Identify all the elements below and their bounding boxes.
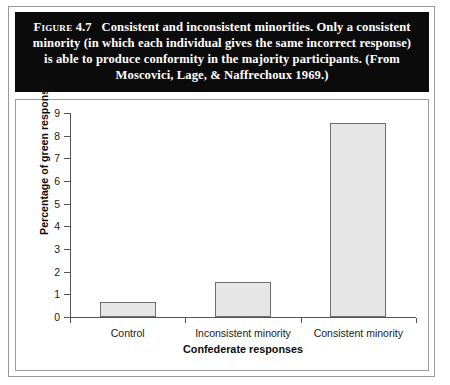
y-axis-tick-label-wrap: 2: [16, 267, 60, 277]
x-axis-category-label: Inconsistent minority: [185, 327, 300, 339]
x-axis-tick: [70, 318, 71, 323]
y-axis-tick-label-wrap: 1: [16, 289, 60, 299]
figure-caption-block: Figure 4.7 Consistent and inconsistent m…: [15, 12, 429, 92]
figure-container: Figure 4.7 Consistent and inconsistent m…: [8, 6, 435, 377]
bar: [100, 302, 156, 317]
y-axis-tick: [64, 136, 70, 137]
x-axis-line: [70, 317, 416, 318]
y-axis-tick: [64, 113, 70, 114]
y-axis-line: [70, 113, 71, 318]
figure-label: Figure: [33, 20, 72, 34]
y-axis-tick-label: 0: [20, 312, 60, 322]
y-axis-tick-label: 2: [20, 267, 60, 277]
x-axis-category-label: Control: [70, 327, 185, 339]
y-axis-tick: [64, 158, 70, 159]
y-axis-tick: [64, 181, 70, 182]
plot-area: 0123456789 ControlInconsistent minorityC…: [16, 100, 428, 370]
chart-frame: 0123456789 ControlInconsistent minorityC…: [15, 99, 429, 371]
y-axis-tick-label: 1: [20, 289, 60, 299]
x-axis-tick: [416, 318, 417, 323]
x-axis-title: Confederate responses: [70, 343, 416, 355]
y-axis-tick: [64, 272, 70, 273]
y-axis-tick: [64, 249, 70, 250]
y-axis-tick-label-wrap: 0: [16, 312, 60, 322]
x-axis-tick: [301, 318, 302, 323]
bar: [330, 123, 386, 317]
y-axis-tick: [64, 204, 70, 205]
bar: [215, 282, 271, 317]
x-axis-tick: [185, 318, 186, 323]
figure-number: 4.7: [72, 20, 101, 34]
y-axis-tick: [64, 226, 70, 227]
y-axis-tick: [64, 294, 70, 295]
y-axis-title: Percentage of green responses: [38, 66, 50, 246]
x-axis-category-label: Consistent minority: [301, 327, 416, 339]
figure-caption-text: Figure 4.7 Consistent and inconsistent m…: [29, 19, 415, 83]
